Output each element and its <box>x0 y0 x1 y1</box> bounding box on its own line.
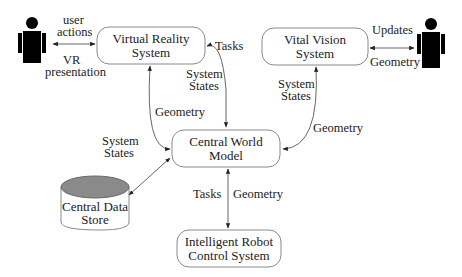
user-actions-label-2: actions <box>57 25 93 39</box>
robot-control-label-2: Control System <box>188 248 269 263</box>
system-architecture-diagram: Virtual Reality System Vital Vision Syst… <box>0 0 462 277</box>
central-data-store-node[interactable]: Central Data Store <box>61 176 129 230</box>
vr-tasks-label: Tasks <box>215 39 243 53</box>
vv-system-states-label-2: States <box>281 89 311 103</box>
vv-geometry-label: Geometry <box>313 121 364 135</box>
central-world-model-node[interactable]: Central World Model <box>172 130 280 167</box>
vr-presentation-label-2: presentation <box>45 65 107 79</box>
vital-vision-label-1: Vital Vision <box>284 32 347 47</box>
vr-system-states-label-2: States <box>189 79 219 93</box>
robot-control-label-1: Intelligent Robot <box>185 234 274 249</box>
vital-vision-system-node[interactable]: Vital Vision System <box>262 28 368 65</box>
vv-geometry-actor-label: Geometry <box>370 55 421 69</box>
vr-geometry-label: Geometry <box>155 105 206 119</box>
vv-updates-label: Updates <box>372 23 413 37</box>
edge-db-world <box>129 158 170 195</box>
virtual-reality-system-node[interactable]: Virtual Reality System <box>97 27 205 64</box>
central-world-label-2: Model <box>209 148 243 163</box>
robot-geometry-label: Geometry <box>233 187 284 201</box>
left-user-person-icon <box>18 17 46 63</box>
db-system-states-label-2: States <box>104 146 134 160</box>
robot-tasks-label: Tasks <box>193 187 221 201</box>
right-user-person-icon <box>417 18 445 68</box>
central-world-label-1: Central World <box>189 134 263 149</box>
central-data-label-2: Store <box>81 212 109 227</box>
vital-vision-label-2: System <box>296 46 334 61</box>
intelligent-robot-control-node[interactable]: Intelligent Robot Control System <box>177 230 281 267</box>
vr-system-label-2: System <box>132 45 170 60</box>
vr-system-label-1: Virtual Reality <box>113 31 190 46</box>
